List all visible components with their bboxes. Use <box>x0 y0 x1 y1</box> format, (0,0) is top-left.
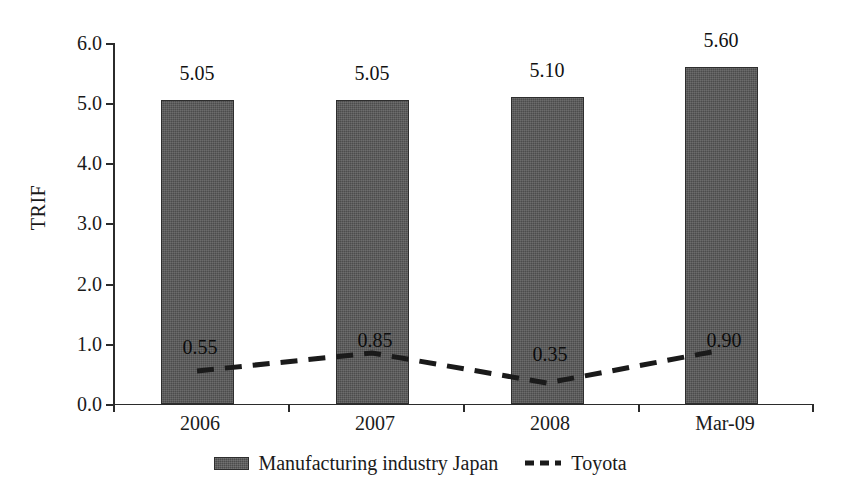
bar-mar-09 <box>685 67 758 404</box>
y-tick-6 <box>106 43 113 45</box>
x-tick-label-2006: 2006 <box>125 412 275 434</box>
legend-label-manufacturing: Manufacturing industry Japan <box>258 452 498 474</box>
legend-item-toyota: Toyota <box>524 452 626 474</box>
chart-figure: TRIF 6.0 5.0 4.0 3.0 2.0 1.0 0.0 2006 20… <box>0 0 841 499</box>
x-tick-label-2008: 2008 <box>475 412 625 434</box>
y-tick-label-4: 4.0 <box>77 153 102 173</box>
line-label-2006: 0.55 <box>155 337 245 357</box>
x-tick-2 <box>463 404 465 412</box>
x-tick-label-mar-09: Mar-09 <box>650 412 800 434</box>
y-tick-label-6: 6.0 <box>77 33 102 53</box>
y-tick-0 <box>106 404 113 406</box>
y-tick-label-2: 2.0 <box>77 274 102 294</box>
y-tick-label-1: 1.0 <box>77 334 102 354</box>
bar-swatch-icon <box>214 457 249 470</box>
bar-label-2006: 5.05 <box>137 63 257 83</box>
bar-2007 <box>336 100 409 404</box>
y-tick-label-0: 0.0 <box>77 394 102 414</box>
line-label-mar-09: 0.90 <box>679 330 769 350</box>
y-tick-3 <box>106 223 113 225</box>
y-tick-5 <box>106 103 113 105</box>
bar-label-2008: 5.10 <box>487 60 607 80</box>
bar-label-2007: 5.05 <box>312 63 432 83</box>
bar-label-mar-09: 5.60 <box>661 30 781 50</box>
y-tick-2 <box>106 284 113 286</box>
chart-legend: Manufacturing industry Japan Toyota <box>0 452 841 474</box>
y-axis-line <box>113 43 115 405</box>
x-tick-end <box>812 404 814 412</box>
y-axis-title: TRIF <box>27 148 50 268</box>
x-tick-start <box>113 404 115 412</box>
y-tick-4 <box>106 163 113 165</box>
x-tick-label-2007: 2007 <box>300 412 450 434</box>
legend-label-toyota: Toyota <box>571 452 626 474</box>
x-tick-3 <box>638 404 640 412</box>
y-tick-1 <box>106 344 113 346</box>
x-tick-1 <box>288 404 290 412</box>
legend-item-manufacturing: Manufacturing industry Japan <box>214 452 498 474</box>
dashed-line-icon <box>524 457 562 469</box>
line-label-2008: 0.35 <box>505 344 595 364</box>
bar-2006 <box>161 100 234 404</box>
line-label-2007: 0.85 <box>330 330 420 350</box>
y-tick-label-3: 3.0 <box>77 213 102 233</box>
y-tick-label-5: 5.0 <box>77 93 102 113</box>
